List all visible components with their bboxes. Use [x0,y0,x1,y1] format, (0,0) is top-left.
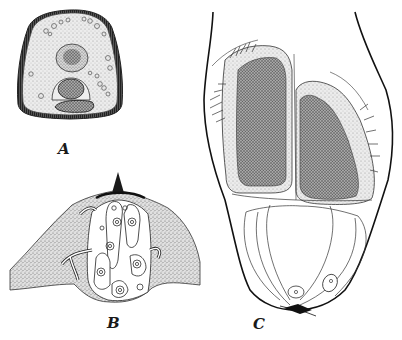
panel-label-b: B [107,314,120,332]
panel-a-cell-section [17,10,122,119]
panel-label-a: A [58,140,70,158]
botanical-illustration [0,0,402,340]
panel-b-tissue-section [10,172,200,302]
panel-label-c: C [253,315,265,333]
panel-c-ovule-section [204,12,392,316]
figure-plate: A B C [0,0,402,340]
